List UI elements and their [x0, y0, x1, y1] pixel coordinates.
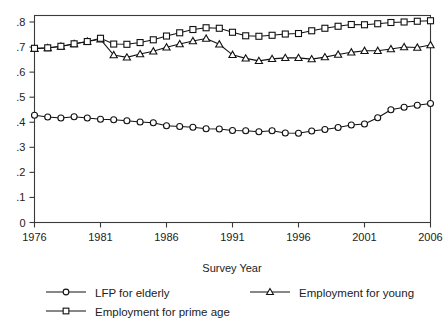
- marker-circle: [216, 126, 222, 132]
- marker-circle: [375, 115, 381, 121]
- marker-square: [375, 21, 381, 27]
- x-tick-label: 1996: [286, 231, 310, 243]
- marker-square: [58, 43, 64, 49]
- marker-square: [243, 33, 249, 39]
- y-tick-label: .3: [16, 141, 25, 153]
- marker-square: [388, 20, 394, 26]
- marker-circle: [322, 127, 328, 133]
- marker-square: [190, 27, 196, 33]
- x-tick-label: 1976: [22, 231, 46, 243]
- marker-triangle: [216, 41, 223, 47]
- marker-square: [362, 22, 368, 28]
- marker-circle: [296, 130, 302, 136]
- x-axis-ticks: 1976198119861991199620012006: [22, 223, 442, 243]
- marker-square: [401, 19, 407, 25]
- marker-circle: [71, 114, 77, 120]
- legend-item[interactable]: Employment for young: [250, 287, 414, 299]
- marker-circle: [111, 117, 117, 123]
- marker-circle: [269, 128, 275, 134]
- marker-square: [203, 25, 209, 31]
- marker-circle: [414, 102, 420, 108]
- marker-square: [322, 25, 328, 31]
- y-tick-label: .6: [16, 66, 25, 78]
- series-circle: [32, 100, 434, 136]
- legend-label: Employment for prime age: [95, 306, 230, 318]
- legend-label: LFP for elderly: [95, 287, 170, 299]
- marker-square: [296, 31, 302, 37]
- marker-circle: [428, 100, 434, 106]
- marker-circle: [63, 289, 69, 295]
- marker-circle: [203, 126, 209, 132]
- marker-square: [137, 40, 143, 46]
- marker-square: [98, 35, 104, 41]
- x-tick-label: 2006: [418, 231, 442, 243]
- marker-circle: [124, 118, 130, 124]
- marker-triangle: [427, 41, 434, 47]
- marker-square: [150, 37, 156, 43]
- legend-item[interactable]: Employment for prime age: [46, 306, 230, 318]
- x-tick-label: 1986: [154, 231, 178, 243]
- y-tick-label: .8: [16, 16, 25, 28]
- marker-circle: [190, 124, 196, 130]
- marker-circle: [243, 128, 249, 134]
- legend-item[interactable]: LFP for elderly: [46, 287, 170, 299]
- marker-circle: [348, 122, 354, 128]
- marker-square: [216, 25, 222, 31]
- marker-circle: [309, 128, 315, 134]
- marker-square: [348, 22, 354, 28]
- chart-legend: LFP for elderlyEmployment for youngEmplo…: [46, 287, 414, 318]
- chart-figure: 0.1.2.3.4.5.6.7.8 1976198119861991199620…: [0, 0, 444, 327]
- marker-triangle: [203, 35, 210, 41]
- x-tick-label: 1981: [88, 231, 112, 243]
- y-tick-label: .7: [16, 41, 25, 53]
- marker-square: [124, 41, 130, 47]
- y-tick-label: .1: [16, 191, 25, 203]
- marker-square: [71, 41, 77, 47]
- marker-square: [84, 39, 90, 45]
- marker-circle: [45, 114, 51, 120]
- marker-circle: [150, 120, 156, 126]
- marker-circle: [98, 116, 104, 122]
- marker-circle: [282, 130, 288, 136]
- marker-circle: [58, 115, 64, 121]
- marker-circle: [137, 119, 143, 125]
- legend-label: Employment for young: [299, 287, 414, 299]
- marker-circle: [401, 104, 407, 110]
- marker-square: [269, 32, 275, 38]
- marker-circle: [84, 115, 90, 121]
- marker-circle: [362, 121, 368, 127]
- marker-square: [111, 41, 117, 47]
- data-series-layer: [31, 18, 434, 137]
- x-tick-label: 2001: [352, 231, 376, 243]
- x-tick-label: 1991: [220, 231, 244, 243]
- marker-square: [414, 18, 420, 24]
- y-tick-label: .2: [16, 166, 25, 178]
- y-tick-label: .5: [16, 91, 25, 103]
- marker-circle: [388, 107, 394, 113]
- marker-circle: [32, 112, 38, 118]
- marker-square: [177, 30, 183, 36]
- marker-square: [164, 33, 170, 39]
- marker-square: [428, 18, 434, 24]
- marker-square: [335, 23, 341, 29]
- marker-circle: [177, 124, 183, 130]
- x-axis-title: Survey Year: [202, 262, 262, 274]
- marker-circle: [230, 128, 236, 134]
- marker-square: [63, 308, 69, 314]
- marker-square: [256, 33, 262, 39]
- marker-circle: [164, 123, 170, 129]
- marker-square: [45, 45, 51, 51]
- marker-square: [282, 31, 288, 37]
- marker-square: [309, 28, 315, 34]
- marker-circle: [335, 125, 341, 131]
- y-tick-label: .4: [16, 116, 25, 128]
- marker-square: [230, 29, 236, 35]
- y-tick-label: 0: [19, 217, 25, 229]
- series-triangle: [31, 35, 434, 64]
- marker-circle: [256, 129, 262, 135]
- marker-square: [32, 45, 38, 51]
- series-square: [32, 18, 434, 52]
